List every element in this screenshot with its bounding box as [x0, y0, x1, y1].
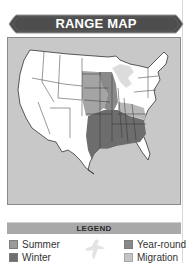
range-map	[7, 37, 181, 205]
legend-item-year-round: Year-round	[124, 239, 186, 250]
legend-label-summer: Summer	[22, 239, 60, 250]
migration-swatch	[124, 253, 133, 262]
legend-label-year-round: Year-round	[137, 239, 186, 250]
legend-title: LEGEND	[7, 223, 181, 234]
legend-item-migration: Migration	[124, 252, 178, 263]
summer-swatch	[9, 240, 18, 249]
year-round-swatch	[124, 240, 133, 249]
legend-item-summer: Summer	[9, 239, 60, 250]
winter-swatch	[9, 253, 18, 262]
legend-label-migration: Migration	[137, 252, 178, 263]
legend-label-winter: Winter	[22, 252, 51, 263]
bird-silhouette-icon	[84, 238, 106, 263]
page-edge-rule	[182, 0, 183, 263]
range-map-banner: RANGE MAP	[8, 14, 184, 34]
legend-header: LEGEND	[7, 222, 181, 234]
page-title: RANGE MAP	[8, 14, 184, 34]
legend-item-winter: Winter	[9, 252, 51, 263]
us-map	[8, 38, 180, 204]
